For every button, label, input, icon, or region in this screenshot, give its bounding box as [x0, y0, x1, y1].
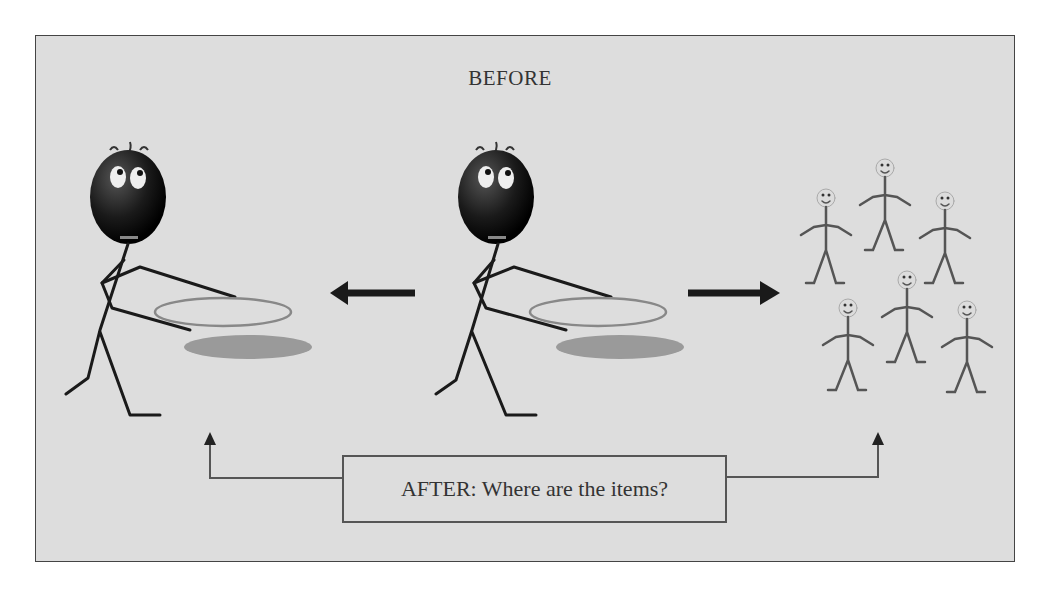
- after-callout-box: AFTER: Where are the items?: [342, 455, 727, 523]
- small-person-icon: [801, 189, 851, 283]
- after-label: AFTER: Where are the items?: [401, 476, 668, 502]
- center-figure: [436, 142, 684, 415]
- people-group: [801, 159, 992, 392]
- small-person-icon: [942, 301, 992, 392]
- small-person-icon: [882, 271, 932, 362]
- person-icon: [436, 142, 684, 415]
- small-person-icon: [860, 159, 910, 250]
- left-arrow-icon: [330, 281, 415, 305]
- small-person-icon: [920, 192, 970, 283]
- before-label: BEFORE: [420, 66, 600, 91]
- small-person-icon: [823, 299, 873, 390]
- person-icon: [66, 142, 312, 415]
- left-figure: [66, 142, 312, 415]
- connector-left-arrow-icon: [204, 432, 342, 478]
- connector-right-arrow-icon: [727, 432, 884, 477]
- right-arrow-icon: [688, 281, 780, 305]
